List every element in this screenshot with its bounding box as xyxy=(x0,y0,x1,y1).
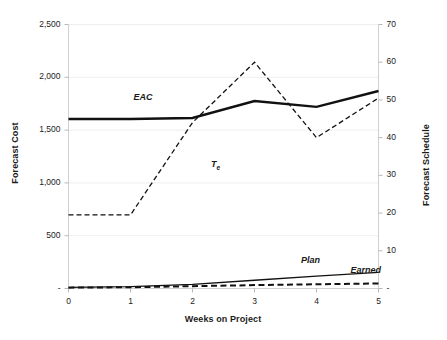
y-axis-right-tick-label: 70 xyxy=(387,19,417,29)
series-label-eac: EAC xyxy=(134,92,153,102)
x-axis-tick-label: 2 xyxy=(181,296,205,306)
y-axis-left-tick-label: - xyxy=(21,283,61,293)
y-axis-right-tick-label: 10 xyxy=(387,245,417,255)
axis-spines xyxy=(69,25,379,289)
x-axis-tick-label: 5 xyxy=(367,296,391,306)
y-axis-right-tick-label: - xyxy=(387,283,417,293)
x-axis-tick-label: 4 xyxy=(305,296,329,306)
data-series-group xyxy=(69,62,379,287)
y-axis-right-tick-label: 40 xyxy=(387,132,417,142)
y-axis-right-tick-label: 30 xyxy=(387,169,417,179)
y-axis-left-tick-label: 2,000 xyxy=(21,71,61,81)
plot-area xyxy=(0,0,447,340)
series-label-earned: Earned xyxy=(351,265,382,275)
gridlines xyxy=(69,25,379,289)
y-axis-left-tick-label: 1,500 xyxy=(21,124,61,134)
y-axis-left-tick-label: 500 xyxy=(21,230,61,240)
series-label-plan: Plan xyxy=(301,255,320,265)
chart-container: Forecast Cost Forecast Schedule Weeks on… xyxy=(0,0,447,340)
series-line-eac xyxy=(69,91,379,119)
y-axis-right-tick-label: 50 xyxy=(387,94,417,104)
y-axis-left-tick-label: 1,000 xyxy=(21,177,61,187)
series-label-te: Te xyxy=(211,159,220,171)
series-line-te xyxy=(69,62,379,215)
y-axis-right-tick-label: 60 xyxy=(387,56,417,66)
x-axis-tick-label: 0 xyxy=(57,296,81,306)
tick-marks xyxy=(65,25,383,293)
y-axis-left-tick-label: 2,500 xyxy=(21,19,61,29)
x-axis-tick-label: 1 xyxy=(119,296,143,306)
y-axis-right-tick-label: 20 xyxy=(387,207,417,217)
x-axis-tick-label: 3 xyxy=(243,296,267,306)
